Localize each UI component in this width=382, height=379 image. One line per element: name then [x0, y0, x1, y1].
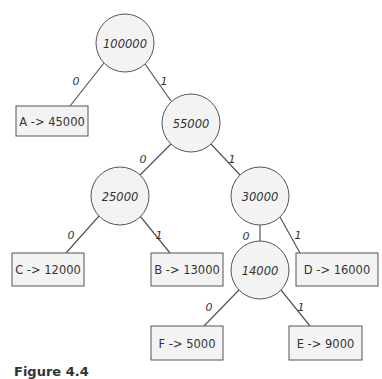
tree-edge: 1	[145, 64, 171, 101]
node-weight-label: 55000	[173, 117, 210, 131]
leaf-node-C: C -> 12000	[12, 253, 84, 286]
leaf-node-B: B -> 13000	[151, 253, 223, 286]
tree-edge: 1	[280, 217, 302, 253]
leaf-node-F: F -> 5000	[151, 326, 223, 360]
tree-edge: 0	[70, 63, 104, 106]
tree-edge: 1	[281, 290, 310, 326]
edge-bit-label: 1	[229, 153, 236, 166]
leaf-label: C -> 12000	[15, 263, 81, 277]
internal-node-25000: 25000	[91, 167, 149, 225]
edge-bit-label: 1	[298, 301, 305, 314]
edge-bit-label: 0	[206, 301, 213, 314]
leaf-label: F -> 5000	[159, 337, 216, 351]
tree-edge: 0	[66, 216, 99, 253]
edge-bit-label: 1	[156, 229, 163, 242]
tree-edge: 0	[243, 225, 261, 243]
internal-node-55000: 55000	[162, 94, 220, 152]
edge-bit-label: 1	[161, 75, 168, 88]
edge-bit-label: 0	[68, 229, 75, 242]
edge-bit-label: 0	[73, 75, 80, 88]
tree-edge: 1	[211, 144, 240, 175]
node-weight-label: 100000	[103, 37, 147, 51]
node-weight-label: 30000	[242, 190, 279, 204]
tree-edge: 1	[140, 216, 170, 253]
internal-node-14000: 14000	[231, 241, 289, 299]
leaf-label: E -> 9000	[297, 337, 355, 351]
internal-node-30000: 30000	[231, 167, 289, 225]
node-weight-label: 14000	[242, 264, 279, 278]
leaf-node-A: A -> 45000	[16, 106, 88, 136]
edge-bit-label: 0	[140, 153, 147, 166]
leaf-label: A -> 45000	[19, 115, 85, 129]
edge-bit-label: 0	[243, 230, 250, 243]
tree-edge: 0	[204, 290, 239, 326]
node-weight-label: 25000	[102, 190, 139, 204]
leaf-label: B -> 13000	[154, 263, 220, 277]
internal-node-100000: 100000	[96, 14, 154, 72]
leaf-label: D -> 16000	[304, 263, 371, 277]
figure-caption: Figure 4.4	[14, 364, 89, 379]
edge-bit-label: 1	[295, 229, 302, 242]
leaf-node-E: E -> 9000	[289, 326, 362, 360]
tree-edge: 0	[140, 144, 172, 175]
leaf-node-D: D -> 16000	[296, 253, 378, 286]
